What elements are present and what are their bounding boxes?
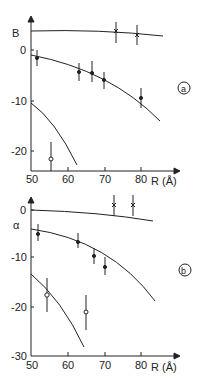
fit-curve-filled bbox=[31, 229, 155, 301]
x-tick-label: 80 bbox=[135, 359, 147, 371]
x-tick-label: 70 bbox=[99, 173, 111, 185]
y-tick-label: -20 bbox=[11, 301, 27, 313]
x-axis-arrow-icon bbox=[174, 168, 180, 174]
x-tick-label: 80 bbox=[135, 173, 147, 185]
x-axis-label: R (Å) bbox=[151, 175, 177, 187]
panel-b bbox=[28, 195, 191, 359]
x-tick-label: 50 bbox=[26, 359, 38, 371]
y-axis-label: α bbox=[13, 219, 20, 231]
y-tick-label: -30 bbox=[11, 350, 27, 362]
y-axis-label: B bbox=[12, 27, 19, 39]
fit-curve-crosses bbox=[31, 210, 153, 221]
x-axis-arrow-icon bbox=[174, 353, 180, 359]
y-axis-arrow-icon bbox=[28, 16, 34, 22]
panel-a bbox=[28, 16, 190, 174]
y-axis-arrow-icon bbox=[28, 197, 34, 203]
figure: B a 0 -10 -20 50 60 70 80 R (Å) α b 0 -1… bbox=[0, 0, 204, 385]
fit-curve-open bbox=[31, 103, 77, 165]
y-tick-label: -20 bbox=[11, 145, 27, 157]
x-tick-label: 70 bbox=[99, 359, 111, 371]
x-tick-label: 60 bbox=[62, 173, 74, 185]
y-tick-label: -10 bbox=[11, 95, 27, 107]
panel-label: a bbox=[181, 84, 186, 94]
x-axis-label: R (Å) bbox=[151, 361, 177, 373]
fit-curve-crosses bbox=[31, 31, 163, 36]
x-tick-label: 50 bbox=[26, 173, 38, 185]
y-tick-label: 0 bbox=[20, 44, 26, 56]
panel-label: b bbox=[181, 266, 186, 276]
y-tick-label: -10 bbox=[11, 251, 27, 263]
x-tick-label: 60 bbox=[62, 359, 74, 371]
fit-curve-open bbox=[31, 274, 84, 347]
y-tick-label: 0 bbox=[20, 204, 26, 216]
